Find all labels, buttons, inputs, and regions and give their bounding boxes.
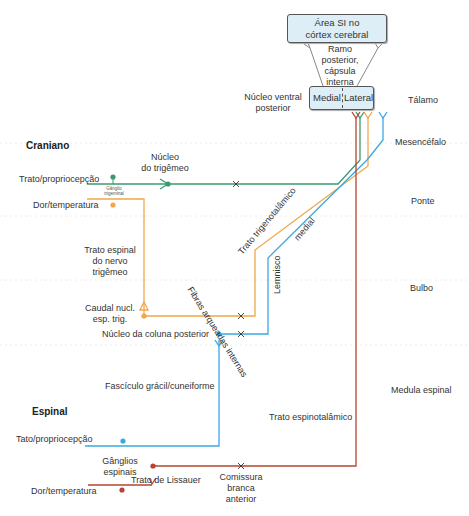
cranial-touch-label: Trato/propriocepção	[19, 174, 99, 185]
caudal-nucleus-label-1: Caudal nucl.	[80, 303, 140, 314]
spinal-touch-label: Tato/propriocepção	[16, 434, 93, 445]
capsule-label-3: cápsula	[300, 66, 380, 77]
commissure-label-1: Comissura	[216, 472, 266, 483]
trigeminal-pain-path	[87, 112, 372, 316]
fasciculus-label: Fascículo grácil/cuneiforme	[105, 381, 215, 392]
cortex-label-2: córtex cerebral	[288, 29, 386, 40]
cranial-heading: Craniano	[26, 140, 69, 151]
lemniscus-label: Lemnisco	[272, 255, 282, 294]
caudal-nucleus-label-2: esp. trig.	[80, 314, 140, 325]
cortex-box: Área SI no córtex cerebral	[287, 14, 387, 43]
dorsal-column-nucleus-label: Núcleo da coluna posterior	[102, 329, 209, 340]
level-thalamus: Tálamo	[408, 95, 438, 106]
spinal-heading: Espinal	[32, 406, 68, 417]
capsule-label-1: Ramo	[300, 44, 380, 55]
lateral-label: Lateral	[344, 92, 373, 103]
spinal-tract-label-2: do nervo	[80, 256, 140, 267]
ganglion-label-2: trigeminal	[100, 191, 128, 196]
medial-label: Medial	[313, 92, 341, 103]
spinothalamic-path	[88, 112, 360, 485]
spinal-ganglia-label-1: Gânglios	[100, 456, 140, 467]
level-pons: Ponte	[411, 196, 435, 207]
decussation-markers	[233, 181, 244, 469]
cortex-label-1: Área SI no	[288, 17, 386, 28]
spinal-pain-label: Dor/temperatura	[31, 486, 97, 497]
spinal-tract-label-1: Trato espinal	[80, 245, 140, 256]
vpn-label-2: posterior	[238, 103, 308, 114]
spinothalamic-label: Trato espinotalâmico	[269, 412, 352, 423]
level-medulla: Bulbo	[410, 283, 433, 294]
dorsal-column-path	[85, 112, 387, 446]
vpn-label-1: Núcleo ventral	[238, 92, 308, 103]
capsule-label-2: posterior,	[300, 55, 380, 66]
lissauer-label: Trato de Lissauer	[131, 475, 201, 486]
thalamus-vpn-box: Medial Lateral	[309, 86, 374, 110]
level-midbrain: Mesencéfalo	[395, 137, 446, 148]
trig-nucleus-label-1: Núcleo	[135, 152, 195, 163]
trig-nucleus-label-2: do trigêmeo	[135, 163, 195, 174]
commissure-label-3: anterior	[216, 494, 266, 505]
commissure-label-2: branca	[216, 483, 266, 494]
level-spinal-cord: Medula espinal	[391, 385, 452, 396]
spinal-tract-label-3: trigêmeo	[80, 267, 140, 278]
cranial-pain-label: Dor/temperatura	[33, 200, 99, 211]
trigeminal-touch-path	[87, 112, 364, 189]
